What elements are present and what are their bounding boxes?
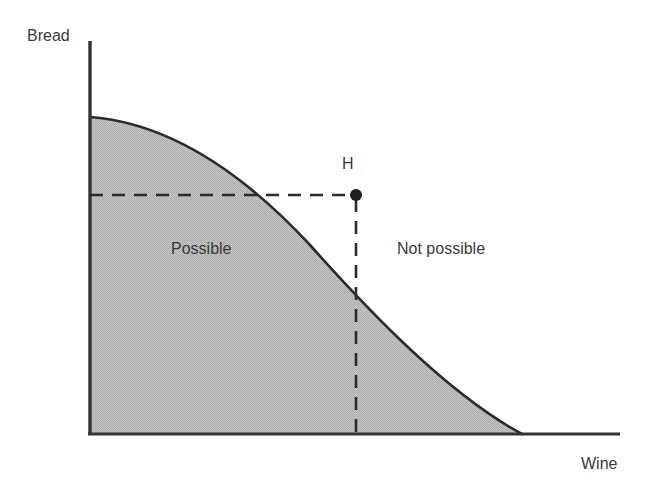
ppf-chart-svg: [0, 0, 655, 495]
possible-region-label: Possible: [171, 240, 231, 258]
point-h-marker: [350, 189, 362, 201]
not-possible-region-label: Not possible: [397, 240, 485, 258]
y-axis-label: Bread: [27, 27, 70, 45]
point-h-label: H: [342, 155, 354, 173]
x-axis-label: Wine: [581, 455, 617, 473]
ppf-figure: Bread Wine Possible Not possible H: [0, 0, 655, 495]
possible-region-shape: [90, 117, 522, 434]
